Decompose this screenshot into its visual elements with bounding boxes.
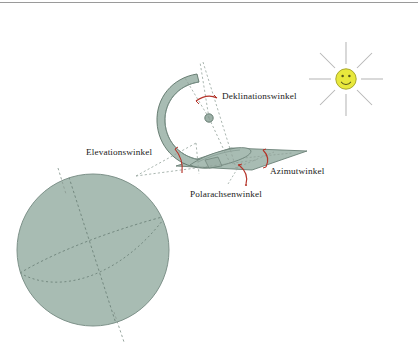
sun-ray-nw: [320, 53, 335, 68]
sun-ray-se: [357, 90, 372, 105]
earth-globe-disc: [17, 174, 169, 326]
diagram-canvas: [0, 0, 418, 345]
sun-eye-right: [348, 75, 351, 78]
label-elevationswinkel: Elevationswinkel: [86, 148, 152, 157]
solar-angles-diagram: Deklinationswinkel Elevationswinkel Azim…: [0, 0, 418, 345]
sun-ray-sw: [320, 90, 335, 105]
sun-eye-left: [341, 75, 344, 78]
earth-globe-group: [17, 168, 169, 342]
polar-axis-arc-origin-dot: [238, 164, 240, 166]
sun-face-disc: [336, 69, 356, 89]
polar-axis-arc-endpoint: [245, 184, 247, 186]
label-polarachsenwinkel: Polarachsenwinkel: [190, 190, 262, 199]
angle-arc-group: [175, 95, 268, 186]
sun-group: [309, 42, 383, 116]
declination-arc-tick-a: [196, 101, 199, 104]
azimuth-arc-tick-b: [263, 167, 266, 168]
guide-vertical-normal: [200, 62, 209, 118]
label-azimutwinkel: Azimutwinkel: [270, 167, 324, 176]
sun-ray-ne: [357, 53, 372, 68]
label-deklinationswinkel: Deklinationswinkel: [222, 92, 297, 101]
parabolic-collector-group: [157, 74, 251, 168]
guide-optical-axis: [185, 78, 209, 118]
